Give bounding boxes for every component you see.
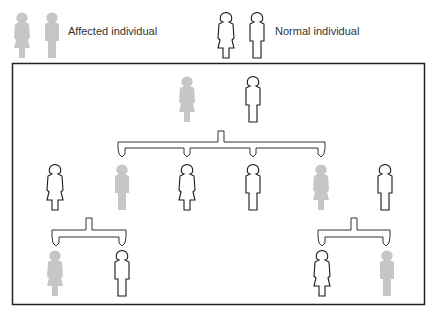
gen3-left-female-affected	[47, 251, 63, 297]
sibship-connector-right	[318, 218, 390, 246]
legend-normal	[218, 13, 264, 59]
affected-male-icon	[45, 13, 59, 59]
pedigree-frame	[13, 64, 425, 305]
legend-affected	[14, 13, 59, 59]
sibship-connector-main	[118, 131, 325, 157]
gen2-female-affected	[313, 165, 329, 211]
gen2-male-normal-spouse	[378, 165, 392, 211]
pedigree-diagram	[0, 0, 435, 315]
gen1-female-affected	[179, 77, 195, 123]
gen1-male-normal	[246, 77, 260, 123]
normal-female-icon	[218, 13, 234, 59]
affected-female-icon	[14, 13, 30, 59]
sibship-connector-left	[52, 218, 126, 246]
gen3-right-female-normal	[314, 251, 330, 297]
gen3-right-male-affected	[380, 251, 394, 297]
gen2-female-normal-spouse	[47, 165, 63, 211]
gen2-male-normal	[246, 165, 260, 211]
gen2-female-normal	[179, 165, 195, 211]
legend-affected-label: Affected individual	[68, 25, 157, 37]
gen3-left-male-normal	[115, 251, 129, 297]
legend-normal-label: Normal individual	[275, 25, 359, 37]
normal-male-icon	[250, 13, 264, 59]
gen2-male-affected	[115, 165, 129, 211]
